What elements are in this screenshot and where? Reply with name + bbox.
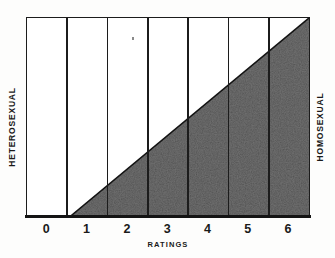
- x-tick-0: 0: [26, 222, 66, 236]
- right-axis-label: HOMOSEXUAL: [315, 77, 325, 177]
- left-axis-label: HETEROSEXUAL: [7, 77, 17, 177]
- x-tick-2: 2: [107, 222, 147, 236]
- kinsey-scale-figure: HETEROSEXUAL HOMOSEXUAL: [0, 0, 335, 258]
- column-divider-0-1: [66, 18, 68, 216]
- x-tick-1: 1: [67, 222, 107, 236]
- x-tick-5: 5: [228, 222, 268, 236]
- x-axis-baseline: [25, 215, 311, 218]
- column-divider-3-4: [187, 18, 189, 216]
- column-divider-1-2: [107, 18, 109, 216]
- x-tick-3: 3: [147, 222, 187, 236]
- column-divider-2-3: [147, 18, 149, 216]
- x-axis-title: RATINGS: [26, 240, 310, 249]
- x-tick-6: 6: [268, 222, 308, 236]
- print-speck: [132, 37, 134, 40]
- x-tick-4: 4: [188, 222, 228, 236]
- shaded-wedge: [27, 18, 309, 216]
- column-divider-5-6: [268, 18, 270, 216]
- column-divider-4-5: [228, 18, 230, 216]
- plot-area: [26, 17, 310, 217]
